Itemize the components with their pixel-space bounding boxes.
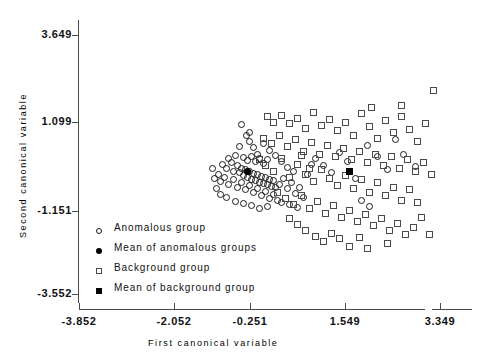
- data-point-background-group: [382, 192, 389, 199]
- x-tick-label-0: -3.852: [43, 315, 115, 327]
- x-axis-tick-0: [79, 303, 80, 310]
- data-point-anomalous-group: [358, 197, 365, 204]
- data-point-background-group: [388, 153, 395, 160]
- data-point-background-group: [270, 119, 277, 126]
- data-point-background-group: [366, 123, 373, 130]
- y-axis-tick-1: [72, 122, 79, 123]
- data-point-background-group: [322, 210, 329, 217]
- data-point-background-group: [402, 231, 409, 238]
- data-point-background-group: [294, 161, 301, 168]
- data-point-background-group: [316, 151, 323, 158]
- data-point-background-group: [356, 148, 363, 155]
- data-point-background-group: [364, 245, 371, 252]
- data-point-background-group: [268, 140, 275, 147]
- x-tick-label-3: 1.549: [311, 315, 379, 327]
- data-point-background-group: [370, 222, 377, 229]
- data-point-background-group: [334, 182, 341, 189]
- data-point-background-group: [330, 202, 337, 209]
- data-point-anomalous-group: [366, 203, 373, 210]
- data-point-background-group: [362, 211, 369, 218]
- data-point-background-group: [328, 230, 335, 237]
- data-point-anomalous-group: [264, 203, 271, 210]
- y-axis-tick-3: [72, 294, 79, 295]
- x-axis-label: First canonical variable: [148, 338, 278, 348]
- data-point-background-group: [406, 186, 413, 193]
- open-circle-icon: [96, 228, 102, 234]
- open-square-icon: [96, 268, 102, 274]
- filled-square-icon: [96, 288, 102, 294]
- data-point-background-group: [394, 220, 401, 227]
- data-point-background-group: [286, 215, 293, 222]
- data-point-background-group: [338, 214, 345, 221]
- data-point-background-group: [366, 189, 373, 196]
- data-point-anomalous-group: [262, 188, 269, 195]
- data-point-anomalous-group: [232, 198, 239, 205]
- data-point-background-group: [318, 122, 325, 129]
- data-point-background-group: [350, 132, 357, 139]
- data-point-background-group: [324, 142, 331, 149]
- data-point-background-group: [294, 115, 301, 122]
- data-point-background-group: [374, 135, 381, 142]
- data-point-background-group: [310, 178, 317, 185]
- data-point-background-group: [428, 171, 435, 178]
- data-point-background-group: [286, 174, 293, 181]
- x-tick-label-2: -0.251: [214, 315, 286, 327]
- data-point-background-group: [274, 189, 281, 196]
- data-point-background-group: [410, 224, 417, 231]
- data-point-background-group: [374, 179, 381, 186]
- data-point-anomalous-group: [246, 182, 253, 189]
- data-point-background-group: [406, 126, 413, 133]
- y-tick-label-3: -3.552: [14, 287, 72, 299]
- data-point-anomalous-group: [256, 205, 263, 212]
- data-point-background-group: [294, 221, 301, 228]
- data-point-background-group: [298, 152, 305, 159]
- data-point-background-group: [270, 168, 277, 175]
- data-point-background-group: [292, 136, 299, 143]
- data-point-anomalous-group: [221, 174, 228, 181]
- data-point-anomalous-group: [238, 179, 245, 186]
- data-point-background-group: [276, 132, 283, 139]
- data-point-background-group: [390, 129, 397, 136]
- data-point-background-group: [298, 192, 305, 199]
- data-point-background-group: [278, 155, 285, 162]
- data-point-background-group: [354, 218, 361, 225]
- data-point-anomalous-group: [236, 143, 243, 150]
- data-point-background-group: [382, 117, 389, 124]
- y-tick-label-1: 1.099: [18, 115, 72, 127]
- data-point-background-group: [420, 159, 427, 166]
- x-axis-tick-1: [174, 303, 175, 310]
- data-point-background-group: [312, 233, 319, 240]
- data-point-background-group: [414, 199, 421, 206]
- data-point-anomalous-group: [364, 142, 371, 149]
- data-point-background-group: [412, 168, 419, 175]
- data-point-background-group: [290, 201, 297, 208]
- data-point-background-group: [414, 138, 421, 145]
- data-point-background-group: [308, 139, 315, 146]
- data-point-anomalous-group: [246, 129, 253, 136]
- data-point-background-group: [314, 198, 321, 205]
- scatter-plot-figure: Second canonical variable 3.649 1.099 -1…: [0, 0, 483, 359]
- data-point-background-group: [306, 205, 313, 212]
- data-point-background-group: [380, 162, 387, 169]
- data-point-background-group: [398, 113, 405, 120]
- data-point-background-group: [348, 156, 355, 163]
- data-point-anomalous-group: [250, 144, 257, 151]
- data-point-background-group: [332, 153, 339, 160]
- data-point-background-group: [346, 243, 353, 250]
- x-tick-label-4: 3.349: [406, 315, 474, 327]
- data-point-anomalous-group: [240, 200, 247, 207]
- legend-label-mean-anomalous: Mean of anomalous groups: [114, 242, 257, 253]
- data-point-background-group: [396, 165, 403, 172]
- y-tick-label-0: 3.649: [18, 28, 72, 40]
- data-point-background-group: [334, 127, 341, 134]
- data-point-anomalous-group: [230, 176, 237, 183]
- data-point-anomalous-group: [296, 184, 303, 191]
- legend-label-anomalous-group: Anomalous group: [114, 222, 206, 233]
- data-point-background-group: [346, 207, 353, 214]
- x-axis-tick-3: [345, 303, 346, 310]
- data-point-background-group: [356, 234, 363, 241]
- filled-circle-icon: [96, 248, 102, 254]
- x-axis-tick-4: [440, 303, 441, 310]
- data-point-anomalous-group: [232, 152, 239, 159]
- data-point-background-group: [384, 240, 391, 247]
